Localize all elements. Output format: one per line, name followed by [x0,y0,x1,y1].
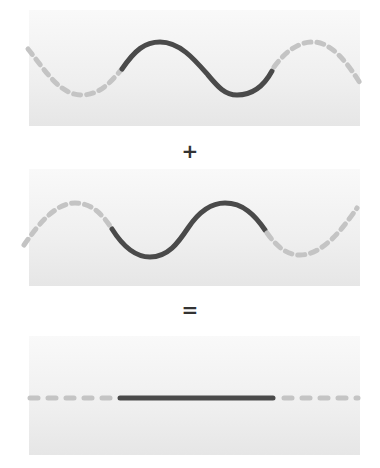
wave-2-solid [112,203,265,257]
wave-1-dashed-right [274,42,360,83]
wave-1-dashed-left [28,49,122,95]
wave-1 [28,42,360,95]
wave-1-solid [122,42,272,95]
wave-2 [24,203,357,257]
waves-drawing [0,0,380,468]
wave-2-dashed-left [24,203,112,245]
wave-2-dashed-right [267,208,357,255]
